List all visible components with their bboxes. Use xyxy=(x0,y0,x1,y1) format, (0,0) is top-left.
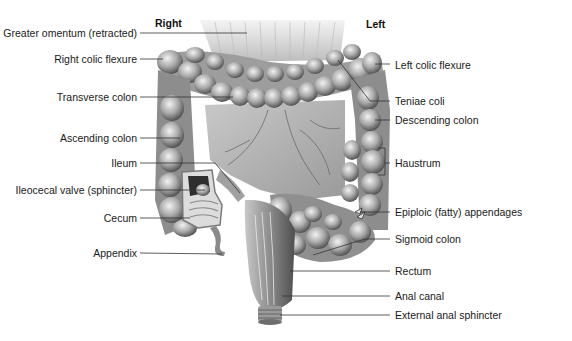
label-anal-canal: Anal canal xyxy=(395,290,444,302)
anatomy-diagram: Right Left Greater omentum (retracted) R… xyxy=(0,0,572,341)
label-epiploic-appendages: Epiploic (fatty) appendages xyxy=(395,206,522,218)
orientation-right-label: Right xyxy=(155,17,182,29)
label-teniae-coli: Teniae coli xyxy=(395,95,445,107)
external-anal-sphincter xyxy=(258,306,282,325)
label-rectum: Rectum xyxy=(395,265,431,277)
label-ascending-colon: Ascending colon xyxy=(60,132,137,144)
label-left-colic-flexure: Left colic flexure xyxy=(395,59,471,71)
large-intestine-illustration xyxy=(0,0,572,341)
label-sigmoid-colon: Sigmoid colon xyxy=(395,233,461,245)
label-haustrum: Haustrum xyxy=(395,157,441,169)
label-ileum: Ileum xyxy=(111,157,137,169)
label-cecum: Cecum xyxy=(104,212,137,224)
label-greater-omentum: Greater omentum (retracted) xyxy=(3,27,137,39)
label-transverse-colon: Transverse colon xyxy=(57,91,137,103)
orientation-left-label: Left xyxy=(366,18,385,30)
label-external-anal-sphincter: External anal sphincter xyxy=(395,309,502,321)
label-right-colic-flexure: Right colic flexure xyxy=(54,53,137,65)
appendix xyxy=(210,226,225,256)
label-appendix: Appendix xyxy=(93,247,137,259)
label-descending-colon: Descending colon xyxy=(395,114,478,126)
label-ileocecal-valve: Ileocecal valve (sphincter) xyxy=(16,184,137,196)
